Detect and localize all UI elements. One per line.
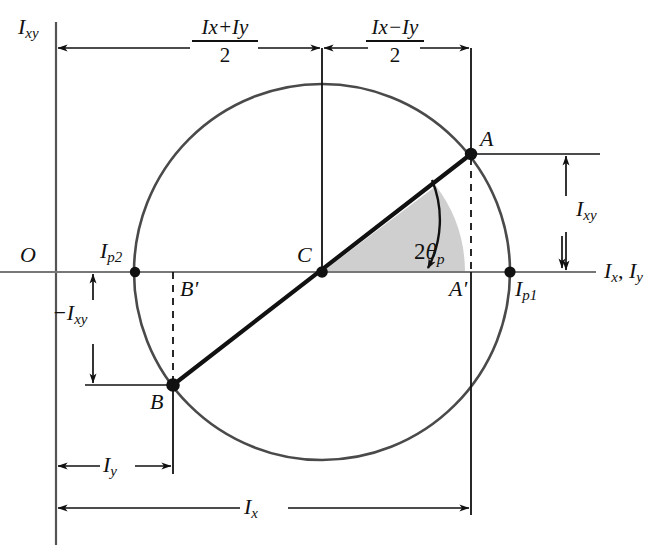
axis-label-ix-sub: x: [611, 269, 618, 285]
point-label-A-prime: A': [449, 278, 467, 300]
mohrs-circle-drawing: [0, 0, 666, 560]
fraction-bar-mean: [192, 40, 258, 42]
dim-label-ix: Ix: [244, 496, 258, 518]
dim-label-ixy-negative: −Ixy: [52, 302, 87, 324]
axis-label-ix-iy: Ix, Iy: [604, 260, 643, 282]
dim-label-mean-numerator: Ix+Iy: [192, 16, 258, 39]
point-label-B: B: [150, 391, 163, 413]
dim-label-half-difference: Ix−Iy 2: [366, 16, 424, 66]
axis-label-ixy: Ixy: [18, 16, 39, 38]
point-marker-Ip2: [130, 267, 140, 277]
point-label-C: C: [297, 244, 312, 266]
axis-label-iy-sub: y: [636, 269, 643, 285]
dim-label-iy: Iy: [103, 454, 117, 476]
point-label-A: A: [480, 128, 493, 150]
point-label-ip1: Ip1: [515, 278, 537, 300]
axis-label-ixy-sub: xy: [25, 25, 38, 41]
angle-label-2theta-p: 2θp: [414, 240, 445, 263]
point-marker-B: [166, 378, 180, 392]
point-marker-Ip1: [504, 266, 515, 277]
point-marker-C: [316, 266, 328, 278]
fraction-bar-halfdiff: [366, 40, 424, 42]
dim-label-halfdiff-numerator: Ix−Iy: [366, 16, 424, 39]
dim-label-mean-moment: Ix+Iy 2: [192, 16, 258, 66]
origin-label: O: [20, 244, 36, 266]
point-marker-A: [465, 148, 477, 160]
point-label-ip2: Ip2: [100, 240, 122, 262]
dim-label-ixy-positive: Ixy: [576, 198, 597, 220]
point-label-B-prime: B': [180, 278, 198, 300]
dim-label-mean-denominator: 2: [192, 43, 258, 66]
mohrs-circle-figure: Ixy Ix, Iy O Ix+Iy 2 Ix−Iy 2 Ixy −Ixy Iy…: [0, 0, 666, 560]
axis-label-comma: ,: [618, 258, 629, 283]
dim-label-halfdiff-denominator: 2: [366, 43, 424, 66]
